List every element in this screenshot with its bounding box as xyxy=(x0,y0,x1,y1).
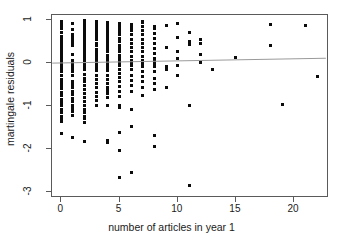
x-tick-label: 10 xyxy=(171,203,182,214)
x-tick-label: 0 xyxy=(58,203,64,214)
y-tick-mark xyxy=(46,148,51,149)
y-tick-label: 1 xyxy=(21,6,35,32)
y-tick-mark xyxy=(46,105,51,106)
x-tick-mark xyxy=(293,197,294,202)
x-axis-label: number of articles in year 1 xyxy=(0,221,343,233)
x-tick-mark xyxy=(235,197,236,202)
x-tick-mark xyxy=(60,197,61,202)
x-tick-mark xyxy=(119,197,120,202)
x-tick-mark xyxy=(177,197,178,202)
plot-area xyxy=(51,14,328,197)
y-tick-mark xyxy=(46,19,51,20)
y-tick-mark xyxy=(46,62,51,63)
scatter-plot-figure: 05101520 10-1-2-3 number of articles in … xyxy=(0,0,343,244)
y-tick-mark xyxy=(46,191,51,192)
y-axis-label-text: martingale residuals xyxy=(4,52,16,146)
y-tick-label: -2 xyxy=(21,135,35,161)
y-tick-label: -1 xyxy=(21,92,35,118)
x-tick-label: 15 xyxy=(229,203,240,214)
y-tick-label: 0 xyxy=(21,49,35,75)
x-tick-label: 5 xyxy=(116,203,122,214)
y-tick-label: -3 xyxy=(21,178,35,204)
x-tick-label: 20 xyxy=(288,203,299,214)
y-axis-label: martingale residuals xyxy=(3,0,17,197)
trend-line xyxy=(52,15,327,196)
